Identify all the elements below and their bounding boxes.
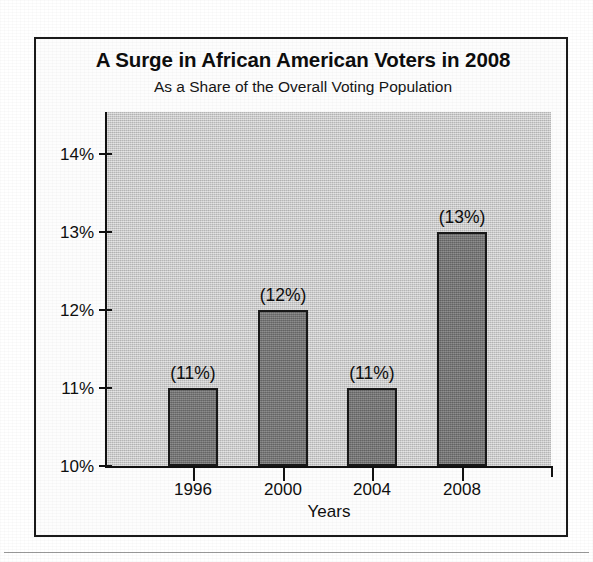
x-tick-label-2008: 2008 (427, 480, 497, 500)
bar-2000[interactable] (258, 310, 308, 466)
x-tick-label-2004: 2004 (337, 480, 407, 500)
y-tick-mark-14 (99, 153, 112, 155)
page-divider-rule (4, 552, 589, 553)
x-axis-title: Years (105, 502, 553, 522)
y-tick-label-12: 12% (36, 301, 94, 321)
bar-label-2008: (13%) (414, 207, 510, 228)
y-tick-label-10: 10% (36, 457, 94, 477)
y-tick-mark-11 (99, 387, 112, 389)
y-tick-mark-13 (99, 231, 112, 233)
y-axis-line (105, 112, 107, 468)
y-tick-label-11: 11% (36, 379, 94, 399)
bar-2004[interactable] (347, 388, 397, 466)
bar-2008[interactable] (437, 232, 487, 466)
chart-title: A Surge in African American Voters in 20… (36, 48, 570, 72)
y-tick-mark-10 (99, 465, 112, 467)
y-tick-label-13: 13% (36, 223, 94, 243)
bar-label-2004: (11%) (324, 363, 420, 384)
bar-1996[interactable] (168, 388, 218, 466)
x-axis-line (105, 466, 553, 468)
chart-subtitle: As a Share of the Overall Voting Populat… (36, 78, 570, 96)
bar-label-1996: (11%) (145, 363, 241, 384)
x-tick-label-1996: 1996 (158, 480, 228, 500)
x-tick-label-2000: 2000 (248, 480, 318, 500)
y-tick-mark-12 (99, 309, 112, 311)
bar-label-2000: (12%) (235, 285, 331, 306)
y-tick-label-14: 14% (36, 145, 94, 165)
x-axis-end-cap (551, 466, 553, 477)
figure-frame: A Surge in African American Voters in 20… (34, 37, 568, 537)
